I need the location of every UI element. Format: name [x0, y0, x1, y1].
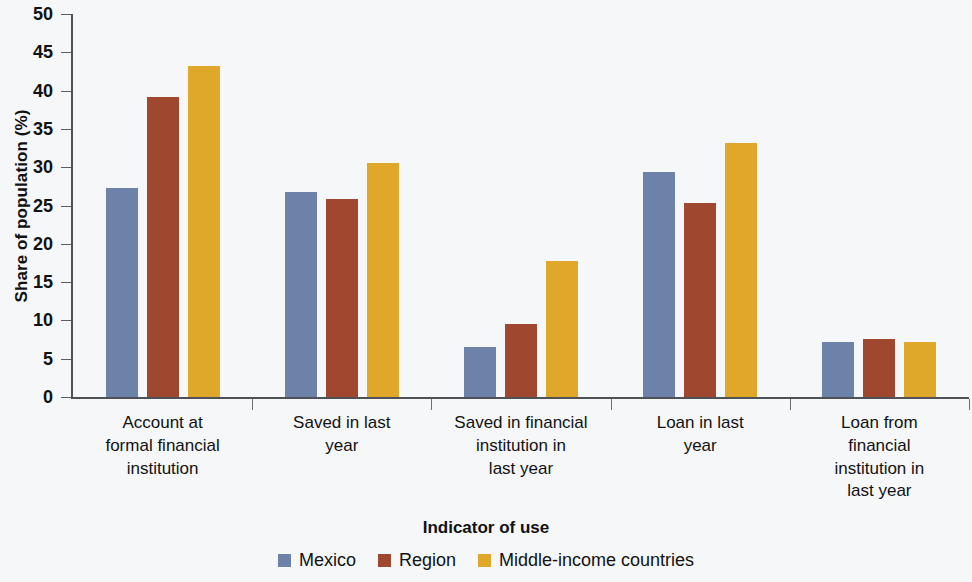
y-axis-tick	[61, 359, 71, 360]
bar[interactable]	[725, 143, 757, 397]
plot-area: 05101520253035404550	[71, 14, 969, 399]
legend-swatch-icon	[478, 554, 491, 567]
bar-group	[643, 14, 757, 397]
y-axis-tick-label: 5	[5, 350, 53, 368]
bar[interactable]	[505, 324, 537, 397]
y-axis-tick-label: 30	[5, 158, 53, 176]
x-axis-category-label-line: Account at	[73, 412, 252, 435]
bar[interactable]	[367, 163, 399, 397]
y-axis-tick	[61, 320, 71, 321]
bar-group	[822, 14, 936, 397]
y-axis-tick-label: 35	[5, 120, 53, 138]
bar-group	[106, 14, 220, 397]
x-axis-category-label-line: year	[252, 435, 431, 458]
y-axis-tick	[61, 14, 71, 15]
legend-swatch-icon	[378, 554, 391, 567]
y-axis-tick-label: 40	[5, 82, 53, 100]
y-axis-tick-label: 25	[5, 197, 53, 215]
x-axis-category-label-line: Saved in last	[252, 412, 431, 435]
y-axis-tick	[61, 282, 71, 283]
x-axis-category-label-line: Saved in financial	[431, 412, 610, 435]
x-axis-category-label: Loan fromfinancialinstitution inlast yea…	[790, 412, 969, 503]
x-axis-category-label: Saved in lastyear	[252, 412, 431, 458]
x-axis-category-label-line: Loan from	[790, 412, 969, 435]
bar-group	[285, 14, 399, 397]
legend-item[interactable]: Middle-income countries	[478, 550, 694, 571]
y-axis-line	[71, 14, 73, 399]
y-axis-tick-label: 45	[5, 43, 53, 61]
y-axis-tick	[61, 397, 71, 398]
x-axis-category-label-line: financial	[790, 435, 969, 458]
y-axis-tick-label: 10	[5, 311, 53, 329]
legend-item[interactable]: Region	[378, 550, 456, 571]
y-axis-tick	[61, 52, 71, 53]
bar[interactable]	[684, 203, 716, 397]
bar[interactable]	[863, 339, 895, 397]
x-axis-category-label-line: Loan in last	[611, 412, 790, 435]
y-axis-tick-label: 15	[5, 273, 53, 291]
y-axis-tick	[61, 167, 71, 168]
x-category-labels: Account atformal financialinstitutionSav…	[71, 412, 969, 512]
x-axis-group-separator	[431, 399, 432, 410]
x-axis-category-label: Saved in financialinstitution inlast yea…	[431, 412, 610, 480]
x-axis-category-label-line: institution in	[431, 435, 610, 458]
bar[interactable]	[546, 261, 578, 397]
bar[interactable]	[147, 97, 179, 397]
bar[interactable]	[188, 66, 220, 397]
y-axis-tick	[61, 206, 71, 207]
x-axis-category-label-line: last year	[431, 458, 610, 481]
x-axis-category-label-line: institution	[73, 458, 252, 481]
x-axis-category-label-line: last year	[790, 480, 969, 503]
x-axis-group-separator	[790, 399, 791, 410]
x-axis-category-label-line: formal financial	[73, 435, 252, 458]
x-axis-category-label-line: institution in	[790, 458, 969, 481]
y-axis-tick-label: 0	[5, 388, 53, 406]
legend-item[interactable]: Mexico	[278, 550, 356, 571]
y-axis-tick	[61, 129, 71, 130]
bar[interactable]	[326, 199, 358, 397]
x-axis-category-label: Loan in lastyear	[611, 412, 790, 458]
bar-chart-figure: Share of population (%) 0510152025303540…	[0, 0, 972, 582]
bar[interactable]	[822, 342, 854, 397]
x-axis-title: Indicator of use	[0, 518, 972, 538]
x-axis-group-separator	[611, 399, 612, 410]
y-axis-tick	[61, 244, 71, 245]
x-axis-category-label-line: year	[611, 435, 790, 458]
x-axis-line	[71, 397, 969, 399]
legend-label: Mexico	[299, 550, 356, 571]
bar[interactable]	[106, 188, 138, 397]
x-axis-group-separator	[969, 399, 970, 410]
legend-label: Region	[399, 550, 456, 571]
chart-legend: MexicoRegionMiddle-income countries	[0, 550, 972, 571]
y-axis-tick-label: 50	[5, 5, 53, 23]
bar[interactable]	[464, 347, 496, 397]
bar[interactable]	[904, 342, 936, 397]
bar[interactable]	[285, 192, 317, 397]
y-axis-tick	[61, 91, 71, 92]
bar[interactable]	[643, 172, 675, 397]
legend-swatch-icon	[278, 554, 291, 567]
legend-label: Middle-income countries	[499, 550, 694, 571]
plot-inner: 05101520253035404550	[71, 14, 969, 399]
y-axis-tick-label: 20	[5, 235, 53, 253]
x-axis-category-label: Account atformal financialinstitution	[73, 412, 252, 480]
bar-group	[464, 14, 578, 397]
x-axis-group-separator	[252, 399, 253, 410]
